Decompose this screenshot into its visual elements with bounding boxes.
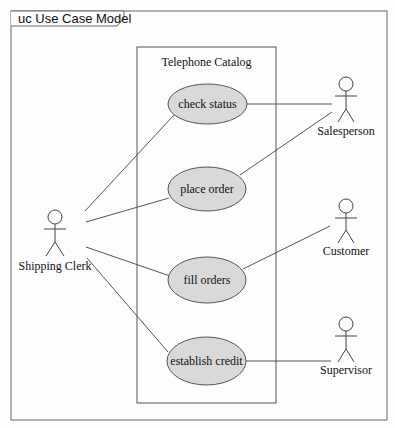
use-case-label: fill orders bbox=[184, 273, 231, 287]
use-case-place-order[interactable]: place order bbox=[168, 167, 246, 211]
associations bbox=[85, 104, 332, 361]
actor-supervisor[interactable] bbox=[335, 317, 357, 362]
use-case-label: place order bbox=[180, 182, 234, 196]
actor-label-salesperson: Salesperson bbox=[317, 124, 374, 138]
association-line bbox=[243, 226, 330, 269]
stick-figure-icon bbox=[339, 77, 353, 91]
use-case-diagram: uc Use Case Model Telephone Catalog chec… bbox=[0, 0, 395, 428]
system-name: Telephone Catalog bbox=[161, 55, 251, 69]
association-line bbox=[86, 198, 169, 222]
association-line bbox=[87, 258, 168, 352]
actor-customer[interactable] bbox=[335, 199, 357, 243]
use-case-establish-credit[interactable]: establish credit bbox=[167, 337, 246, 385]
association-line bbox=[85, 115, 174, 211]
actor-label-customer: Customer bbox=[323, 244, 370, 258]
use-case-check-status[interactable]: check status bbox=[168, 84, 247, 124]
stick-figure-icon bbox=[48, 210, 62, 224]
actor-shipping-clerk[interactable] bbox=[44, 210, 66, 256]
stick-figure-icon bbox=[339, 199, 353, 213]
actor-label-supervisor: Supervisor bbox=[320, 363, 372, 377]
use-case-label: check status bbox=[178, 97, 237, 111]
stick-figure-icon bbox=[339, 317, 353, 331]
use-case-label: establish credit bbox=[170, 354, 243, 368]
frame-label: uc Use Case Model bbox=[18, 11, 132, 26]
actor-salesperson[interactable] bbox=[335, 77, 357, 122]
use-case-fill-orders[interactable]: fill orders bbox=[168, 257, 246, 303]
association-line bbox=[240, 112, 332, 175]
actor-label-shipping-clerk: Shipping Clerk bbox=[18, 259, 91, 273]
